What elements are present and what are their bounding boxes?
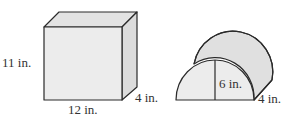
half-cylinder-depth-label: 4 in.: [258, 91, 281, 106]
half-cylinder-radius-label: 6 in.: [219, 76, 242, 91]
rectangular-prism: [44, 12, 137, 100]
prism-depth-label: 4 in.: [135, 90, 158, 105]
prism-width-label: 12 in.: [68, 102, 98, 117]
prism-height-label: 11 in.: [2, 55, 31, 70]
prism-top-face: [44, 12, 137, 27]
prism-front-face: [44, 27, 122, 100]
figure: 11 in. 12 in. 4 in. 6 in. 4 in.: [0, 0, 293, 121]
prism-side-face: [122, 12, 137, 100]
